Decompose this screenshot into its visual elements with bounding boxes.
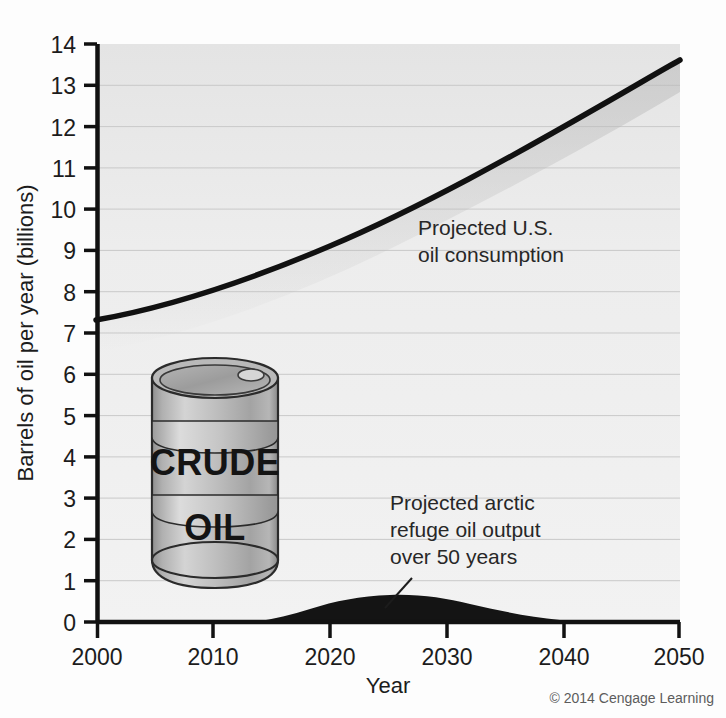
x-tick-label: 2030 xyxy=(421,644,472,670)
x-tick-label: 2020 xyxy=(304,644,355,670)
consumption-annotation-line-1: Projected U.S. xyxy=(418,216,553,239)
barrel-bung-cap-icon xyxy=(238,369,264,381)
copyright-credit: © 2014 Cengage Learning xyxy=(550,690,714,706)
barrel-label-line-1: CRUDE xyxy=(150,442,281,483)
y-axis-title: Barrels of oil per year (billions) xyxy=(13,184,38,481)
y-tick-label: 14 xyxy=(50,32,76,58)
x-tick-label: 2000 xyxy=(71,644,122,670)
crude-oil-barrel: CRUDE OIL xyxy=(150,358,281,588)
y-tick-label: 12 xyxy=(50,115,76,141)
chart-figure: 14 13 12 11 10 9 8 7 6 5 4 3 2 1 0 2 xyxy=(0,0,726,718)
x-tick-marks xyxy=(98,622,680,638)
y-tick-label: 10 xyxy=(50,197,76,223)
y-tick-label: 5 xyxy=(63,404,76,430)
y-tick-label: 1 xyxy=(63,569,76,595)
x-axis-title: Year xyxy=(366,673,410,698)
x-tick-label: 2050 xyxy=(653,644,704,670)
y-tick-label: 9 xyxy=(63,238,76,264)
x-tick-labels: 2000 2010 2020 2030 2040 2050 xyxy=(71,644,704,670)
y-tick-label: 8 xyxy=(63,280,76,306)
y-tick-label: 0 xyxy=(63,610,76,636)
x-tick-label: 2010 xyxy=(187,644,238,670)
consumption-annotation-line-2: oil consumption xyxy=(418,243,564,266)
chart-canvas: 14 13 12 11 10 9 8 7 6 5 4 3 2 1 0 2 xyxy=(0,0,726,718)
arctic-annotation-line-3: over 50 years xyxy=(390,545,517,568)
y-tick-label: 3 xyxy=(63,486,76,512)
y-tick-label: 2 xyxy=(63,527,76,553)
y-tick-label: 11 xyxy=(52,156,76,182)
y-tick-label: 7 xyxy=(63,321,76,347)
arctic-annotation-line-2: refuge oil output xyxy=(390,518,541,541)
y-tick-labels: 14 13 12 11 10 9 8 7 6 5 4 3 2 1 0 xyxy=(50,32,76,636)
x-tick-label: 2040 xyxy=(538,644,589,670)
y-tick-marks xyxy=(84,44,97,622)
arctic-annotation-line-1: Projected arctic xyxy=(390,491,535,514)
y-tick-label: 4 xyxy=(63,445,76,471)
barrel-label-line-2: OIL xyxy=(184,507,246,548)
y-tick-label: 6 xyxy=(63,362,76,388)
y-tick-label: 13 xyxy=(50,73,76,99)
